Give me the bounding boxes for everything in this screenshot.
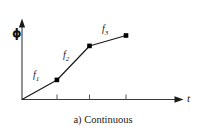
figure-caption: a) Continuous	[0, 114, 206, 125]
x-axis-label: t	[187, 93, 190, 104]
segment-label-f2: f2	[63, 50, 69, 63]
data-point-marker-1	[55, 78, 60, 83]
segment-label-f3: f3	[102, 24, 108, 37]
data-point-marker-2	[87, 44, 92, 49]
segment-label-f1: f1	[33, 70, 39, 83]
data-line-series	[22, 36, 126, 100]
segment-label-f3-subscript: 3	[105, 29, 109, 37]
y-axis-label: ϕ	[12, 27, 22, 39]
x-axis-arrowhead-icon	[175, 96, 184, 102]
segment-label-f1-subscript: 1	[36, 75, 40, 83]
data-point-marker-3	[124, 33, 129, 38]
figure-continuous-signal: ϕ t f1 f2 f3 a) Continuous	[0, 0, 206, 133]
segment-label-f2-subscript: 2	[66, 55, 70, 63]
